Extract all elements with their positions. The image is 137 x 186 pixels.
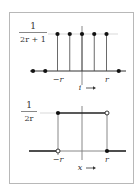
top-xlabel-arrow-icon (86, 86, 96, 90)
bottom-left-base-open-dot (56, 149, 60, 153)
top-ylabel-denominator: 2r + 1 (20, 35, 46, 44)
bottom-ylabel-denominator: 2r (25, 114, 34, 123)
top-impulses (55, 32, 108, 71)
impulse-dot (92, 32, 96, 36)
impulse-dot (80, 32, 84, 36)
uniform-distribution-diagram: 1 2r + 1 −r r i 1 2r (0, 0, 137, 186)
zero-probability-dot (117, 69, 121, 73)
bottom-left-top-filled-dot (56, 111, 60, 115)
bottom-panel: 1 2r −r r x (21, 100, 126, 172)
top-panel: 1 2r + 1 −r r i (19, 21, 126, 92)
bottom-tick-r: r (105, 155, 110, 164)
bottom-ylabel-numerator: 1 (26, 100, 32, 110)
zero-probability-dot (43, 69, 47, 73)
top-xlabel: i (79, 83, 82, 92)
top-ylabel-numerator: 1 (30, 21, 36, 31)
bottom-right-base-filled-dot (105, 149, 109, 153)
bottom-tick-minus-r: −r (53, 155, 65, 164)
impulse-dot (55, 32, 59, 36)
top-tick-minus-r: −r (53, 75, 65, 84)
zero-probability-dot (31, 69, 35, 73)
top-tick-r: r (105, 75, 110, 84)
bottom-xlabel-arrow-icon (86, 166, 96, 170)
impulse-dot (68, 32, 72, 36)
impulse-dot (104, 32, 108, 36)
bottom-xlabel: x (78, 163, 83, 172)
bottom-right-top-open-dot (105, 111, 109, 115)
